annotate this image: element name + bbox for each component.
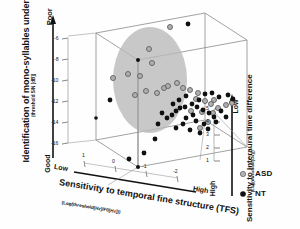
z-anchor-high: High (209, 181, 216, 197)
z-tick-3: 2 (206, 144, 209, 150)
data-point-nt (142, 151, 147, 156)
data-point-nt (156, 122, 161, 127)
data-point-nt (177, 98, 182, 103)
data-point-asd (166, 84, 171, 89)
data-point-nt (197, 98, 202, 103)
y-tick-0: -6 (54, 35, 59, 41)
figure-3d-scatter: Identification of mono-syllables under n… (0, 0, 300, 229)
data-point-nt (219, 109, 224, 114)
data-point-asd (144, 89, 149, 94)
data-point-nt (191, 113, 196, 118)
data-point-asd (133, 93, 138, 98)
y-anchor-poor: Poor (46, 8, 54, 25)
data-point-asd (126, 72, 131, 77)
y-ticks (62, 38, 68, 144)
y-tick-4: -14 (51, 119, 59, 125)
data-point-asd (212, 98, 217, 103)
data-point-asd (138, 74, 143, 79)
data-point-asd (196, 91, 201, 96)
y-anchor-good: Good (44, 154, 51, 172)
data-point-nt (178, 106, 183, 111)
y-tick-1: -8 (54, 56, 59, 62)
data-point-nt (203, 92, 208, 97)
data-point-nt (184, 116, 189, 121)
y-tick-3: -12 (51, 98, 59, 104)
data-point-nt (194, 119, 199, 124)
data-point-asd (181, 86, 186, 91)
data-point-nt (214, 120, 219, 125)
z-tick-0: 5 (206, 105, 209, 111)
data-point-nt (195, 105, 200, 110)
data-point-asd (198, 126, 203, 131)
z-anchor-low: Low (232, 100, 239, 114)
data-point-asd (168, 25, 173, 30)
data-point-nt (201, 108, 206, 113)
data-point-nt (198, 131, 203, 136)
y-tick-2: -10 (51, 77, 59, 83)
x-tick-0: 1 (82, 152, 85, 158)
data-point-nt (174, 126, 179, 131)
data-point-nt (160, 111, 165, 116)
data-point-nt (212, 115, 217, 120)
data-point-nt (186, 22, 191, 27)
data-point-nt (153, 137, 158, 142)
x-tick-1: 0 (112, 158, 115, 164)
data-point-asd (150, 61, 155, 66)
y-tick-5: -16 (51, 140, 59, 146)
data-point-nt (226, 93, 231, 98)
asd-cluster-ellipse (113, 27, 187, 133)
data-point-nt (108, 98, 113, 103)
z-tick-2: 3 (206, 131, 209, 137)
y-axis-label: Identification of mono-syllables under n… (22, 23, 31, 163)
data-point-asd (224, 103, 229, 108)
legend-label-asd: ASD (255, 169, 273, 178)
data-point-nt (127, 157, 132, 162)
data-point-nt (181, 122, 186, 127)
data-point-nt (183, 105, 188, 110)
data-point-nt (184, 94, 189, 99)
data-point-asd (175, 81, 180, 86)
data-point-nt (210, 91, 215, 96)
x-tick-3: -2 (173, 168, 178, 174)
data-point-asd (203, 99, 208, 104)
data-point-nt (171, 102, 176, 107)
data-point-asd (111, 76, 116, 81)
data-point-nt (224, 115, 229, 120)
z-tick-4: 1 (206, 157, 209, 163)
z-tick-1: 4 (206, 118, 209, 124)
data-point-nt (207, 111, 212, 116)
data-point-nt (165, 116, 170, 121)
data-point-nt (190, 102, 195, 107)
data-point-nt (170, 113, 175, 118)
legend-label-nt: NT (255, 189, 266, 198)
x-tick-2: -1 (142, 163, 147, 169)
data-point-asd (188, 88, 193, 93)
data-point-nt (174, 109, 179, 114)
data-point-asd (147, 47, 152, 52)
data-point-nt (188, 128, 193, 133)
data-point-asd (155, 91, 160, 96)
data-point-nt (217, 95, 222, 100)
y-axis-sublabel: (threshold S/N [dB]) (32, 50, 37, 140)
